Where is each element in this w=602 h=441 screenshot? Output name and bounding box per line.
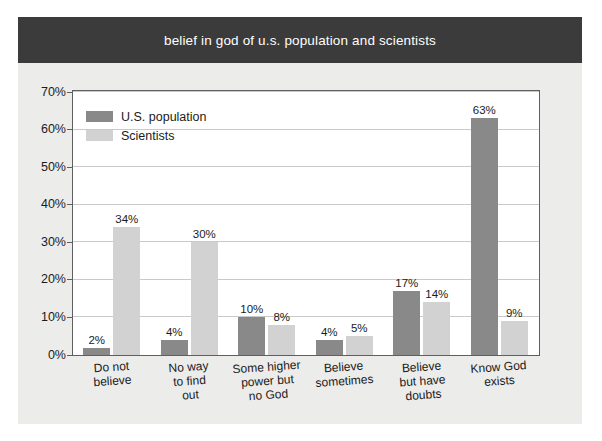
legend-item: U.S. population: [86, 108, 236, 125]
legend-item-label: Scientists: [121, 129, 175, 143]
bar-value-label: 14%: [414, 288, 460, 300]
bar-value-label: 17%: [384, 277, 430, 289]
bar-scientists: [423, 302, 450, 355]
legend-swatch-scientists: [86, 130, 113, 141]
legend-item-label: U.S. population: [121, 110, 206, 124]
y-axis-tick-label: 40%: [10, 197, 66, 211]
legend-item: Scientists: [86, 127, 236, 144]
y-axis-tick-label: 70%: [10, 85, 66, 99]
bar-population: [83, 348, 110, 356]
chart-figure: belief in god of u.s. population and sci…: [0, 0, 602, 441]
x-axis-category-labels: Do notbelieveNo wayto findoutSome higher…: [72, 360, 540, 420]
bar-population: [238, 317, 265, 355]
bar-scientists: [501, 321, 528, 355]
bar-scientists: [268, 325, 295, 355]
y-axis-tick-label: 30%: [10, 235, 66, 249]
y-axis-tick-label: 0%: [10, 348, 66, 362]
bar-scientists: [113, 227, 140, 355]
y-axis-tick-label: 60%: [10, 122, 66, 136]
y-axis-tick-label: 20%: [10, 272, 66, 286]
bar-population: [316, 340, 343, 355]
chart-title-band: belief in god of u.s. population and sci…: [18, 17, 582, 63]
bar-value-label: 34%: [104, 213, 150, 225]
legend-swatch-population: [86, 111, 113, 122]
bar-population: [161, 340, 188, 355]
bar-scientists: [191, 242, 218, 355]
bar-value-label: 8%: [259, 311, 305, 323]
bar-population: [471, 118, 498, 355]
bar-population: [393, 291, 420, 355]
y-axis-tick-label: 50%: [10, 160, 66, 174]
bar-value-label: 9%: [491, 307, 537, 319]
bar-value-label: 30%: [181, 228, 227, 240]
chart-legend: U.S. populationScientists: [86, 108, 236, 146]
y-axis: 0%10%20%30%40%50%60%70%: [0, 90, 72, 356]
bar-value-label: 5%: [336, 322, 382, 334]
x-axis-category-label: Know Godexists: [453, 357, 545, 391]
bar-value-label: 63%: [461, 104, 507, 116]
bar-scientists: [346, 336, 373, 355]
y-axis-tick-label: 10%: [10, 310, 66, 324]
page-title: belief in god of u.s. population and sci…: [164, 33, 436, 48]
